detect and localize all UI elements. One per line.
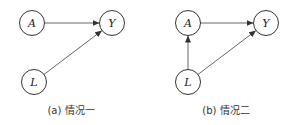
- causal-diagrams-figure: A Y L (a) 情况一 A Y L (b) 情况二: [0, 0, 298, 125]
- node-a-Y: Y: [100, 11, 125, 36]
- node-label: A: [27, 17, 36, 30]
- diagram-b: A Y L (b) 情况二: [176, 11, 279, 117]
- node-b-A: A: [176, 11, 201, 36]
- node-b-L: L: [176, 70, 201, 95]
- node-label: L: [29, 76, 37, 89]
- node-a-L: L: [22, 70, 47, 95]
- diagram-a: A Y L (a) 情况一: [20, 11, 125, 117]
- caption-a: (a) 情况一: [47, 104, 94, 116]
- edge-L-to-Y: [198, 31, 256, 75]
- node-a-A: A: [20, 11, 45, 36]
- node-label: L: [183, 76, 191, 89]
- edges-a: [44, 23, 102, 74]
- caption-b: (b) 情况二: [202, 104, 249, 116]
- node-label: A: [183, 17, 192, 30]
- edge-L-to-Y: [44, 31, 102, 75]
- node-b-Y: Y: [254, 11, 279, 36]
